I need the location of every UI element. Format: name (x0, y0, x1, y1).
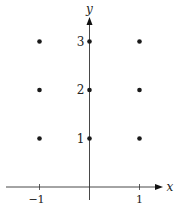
x-tick-label: 1 (136, 193, 143, 206)
data-point (87, 136, 92, 141)
data-point (37, 136, 42, 141)
data-point (137, 39, 142, 44)
x-tick-label: −1 (28, 193, 44, 206)
y-tick-label: 2 (77, 83, 85, 97)
x-axis-arrow-icon (155, 184, 163, 190)
axis-labels: −11123xy (28, 2, 173, 206)
y-axis-label: y (85, 2, 93, 16)
data-point (137, 88, 142, 93)
data-point (87, 88, 92, 93)
data-point (87, 39, 92, 44)
data-point (37, 88, 42, 93)
y-tick-label: 1 (77, 132, 85, 146)
scatter-plot: −11123xy (0, 0, 180, 209)
y-axis-arrow-icon (87, 17, 93, 25)
y-tick-label: 3 (77, 35, 85, 49)
axes (6, 17, 163, 200)
x-axis-label: x (167, 180, 174, 194)
data-point (137, 136, 142, 141)
data-point (37, 39, 42, 44)
